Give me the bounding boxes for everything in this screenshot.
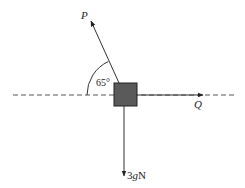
- force-p-arrow: [91, 21, 119, 83]
- particle-box: [114, 83, 137, 106]
- force-p-label: P: [80, 9, 88, 21]
- angle-label: 65°: [96, 77, 110, 88]
- force-q-label: Q: [194, 98, 202, 110]
- force-diagram: P 65° Q 3gN: [0, 0, 245, 188]
- weight-unit: N: [138, 169, 146, 181]
- force-weight-label: 3gN: [127, 169, 146, 181]
